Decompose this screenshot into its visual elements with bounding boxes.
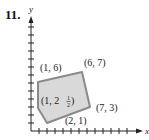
vertex-label-7-3: (7, 3) bbox=[96, 102, 118, 114]
x-axis-label: x bbox=[144, 126, 149, 136]
vertex-label-6-7: (6, 7) bbox=[84, 57, 106, 69]
svg-text:(1, 2: (1, 2 bbox=[41, 95, 59, 107]
vertex-label-1-6: (1, 6) bbox=[40, 62, 62, 74]
svg-text:1: 1 bbox=[67, 95, 70, 101]
svg-text:2: 2 bbox=[67, 102, 70, 108]
y-axis bbox=[28, 16, 34, 131]
x-axis bbox=[31, 128, 143, 134]
svg-text:): ) bbox=[71, 95, 74, 107]
coordinate-plot: y x (1, 6) (6, 7) (7, 3) (2, 1) (1, 2 1 … bbox=[0, 0, 149, 140]
vertex-label-2-1: (2, 1) bbox=[65, 115, 87, 127]
y-axis-label: y bbox=[28, 4, 33, 14]
